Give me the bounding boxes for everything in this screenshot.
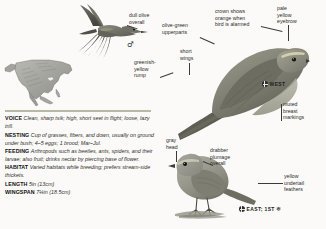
callout-gray-head: gray head [166, 137, 190, 150]
field-guide-page: dull olive overall olive-green upperpart… [0, 0, 326, 229]
section-divider-rule [5, 110, 151, 112]
entry-term-length: LENGTH [5, 181, 27, 187]
bird-illustration-main-male [168, 16, 310, 148]
badge-east-first-label: EAST; 1ST [247, 206, 275, 212]
entry-text-length: 5in (13cm) [29, 181, 54, 187]
leader-gray-head [176, 151, 177, 162]
entry-nesting: NESTING Cup of grasses, fibers, and down… [5, 131, 155, 147]
leader-pale-yellow-eyebrow [288, 25, 289, 41]
entry-term-feeding: FEEDING [5, 148, 29, 154]
badge-east-first: EAST; 1ST ❄ [239, 206, 281, 212]
leader-muted-breast-markings [281, 104, 282, 121]
badge-west: WEST [262, 81, 285, 87]
entry-term-wingspan: WINGSPAN [5, 189, 35, 195]
species-info-block: VOICE Clean, sharp tsik; high, short see… [5, 110, 155, 196]
entry-feeding: FEEDING Arthropods such as beetles, ants… [5, 147, 155, 163]
callout-greenish-yellow-rump: greenish- yellow rump [134, 59, 166, 79]
callout-crown-orange-alarmed: crown shows orange when bird is alarmed [215, 8, 261, 28]
globe-icon [239, 206, 245, 212]
callout-muted-breast-markings: muted breast markings [283, 101, 323, 121]
male-symbol: ♂ [127, 40, 134, 49]
leader-yellow-undertail-feathers [258, 183, 283, 184]
callout-drabber-plumage-overall: drabber plumage overall [210, 147, 248, 167]
entry-term-habitat: HABITAT [5, 164, 28, 170]
callout-olive-green-upperparts: olive-green upperparts [162, 22, 202, 35]
globe-icon [262, 81, 268, 87]
callout-dull-olive-overall: dull olive overall [129, 12, 161, 25]
snowflake-icon: ❄ [276, 206, 281, 212]
entry-text-wingspan: 7¼in (18.5cm) [36, 189, 70, 195]
entry-term-nesting: NESTING [5, 132, 29, 138]
leader-short-wings [189, 63, 190, 75]
entry-text-voice: Clean, sharp tsik; high, short seet in f… [5, 115, 149, 129]
badge-west-label: WEST [270, 81, 286, 87]
callout-yellow-undertail-feathers: yellow undertail feathers [284, 173, 324, 193]
callout-pale-yellow-eyebrow: pale yellow eyebrow [277, 5, 311, 25]
callout-short-wings: short wings [180, 48, 206, 61]
entry-voice: VOICE Clean, sharp tsik; high, short see… [5, 114, 155, 130]
entry-length: LENGTH 5in (13cm) [5, 180, 155, 188]
entry-term-voice: VOICE [5, 115, 22, 121]
entry-habitat: HABITAT Varied habitats while breeding; … [5, 163, 155, 179]
entry-wingspan: WINGSPAN 7¼in (18.5cm) [5, 188, 155, 196]
